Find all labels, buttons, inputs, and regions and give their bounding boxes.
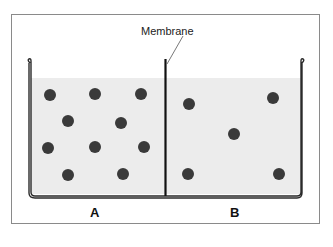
particle xyxy=(138,141,150,153)
particle xyxy=(183,98,195,110)
membrane-label: Membrane xyxy=(141,25,194,37)
particle xyxy=(135,88,147,100)
particle xyxy=(115,117,127,129)
membrane-leader-line xyxy=(167,36,183,64)
particle xyxy=(273,168,285,180)
particle xyxy=(89,141,101,153)
particle xyxy=(182,168,194,180)
osmosis-diagram xyxy=(0,0,333,247)
side-a-label: A xyxy=(90,205,99,220)
particle xyxy=(62,115,74,127)
particle xyxy=(42,142,54,154)
particle xyxy=(62,169,74,181)
particle xyxy=(117,168,129,180)
particle xyxy=(89,88,101,100)
side-b-label: B xyxy=(230,205,239,220)
particle xyxy=(44,89,56,101)
particle xyxy=(228,128,240,140)
particle xyxy=(267,92,279,104)
